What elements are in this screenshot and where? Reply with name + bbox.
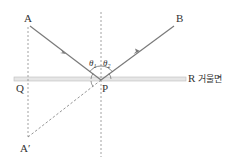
incident-arrow-icon [60,50,66,54]
mirror-label: 거울면 [198,74,222,84]
reflection-diagram: A B P Q A′ R 거울면 θ1 θ2 [0,0,236,167]
point-P-label: P [102,82,108,94]
theta1-label: θ1 [89,58,96,69]
angle-arc-below [91,81,93,87]
point-Aprime-label: A′ [20,142,30,154]
reflected-ray [101,26,174,80]
point-B-label: B [176,12,183,24]
incident-ray [30,26,101,80]
theta2-label: θ2 [103,58,110,69]
point-Q-label: Q [16,82,24,94]
point-R-label: R [188,72,196,84]
virtual-ray-Aprime-P [28,80,101,137]
point-A-label: A [24,12,32,24]
